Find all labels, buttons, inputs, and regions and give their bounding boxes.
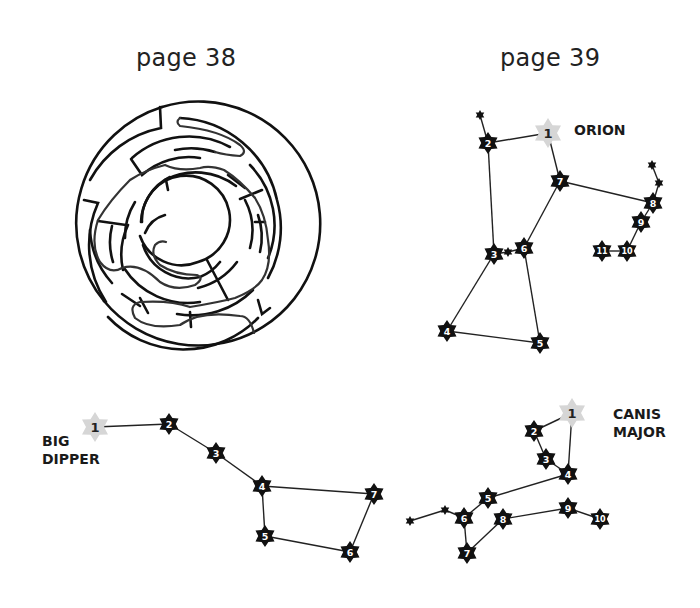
- star-number: 3: [213, 448, 220, 459]
- big-dipper-star-6[interactable]: 6: [341, 541, 360, 563]
- star-number: 4: [565, 469, 572, 480]
- star-number: 4: [259, 481, 266, 492]
- star-number: 2: [531, 426, 538, 437]
- star-number: 9: [638, 217, 645, 228]
- big-dipper-star-5[interactable]: 5: [256, 525, 275, 547]
- big-dipper-label-line-1: BIG: [42, 432, 100, 450]
- orion-connector-line: [447, 331, 540, 343]
- star-number: 8: [650, 198, 657, 209]
- orion-connector-line: [524, 181, 560, 248]
- star-number: 11: [596, 247, 608, 256]
- canis-major-constellation: 12345678910: [406, 398, 610, 564]
- orion-connector-line: [447, 254, 494, 331]
- orion-minor-star-icon: [648, 160, 657, 170]
- big-dipper-star-4[interactable]: 4: [253, 475, 272, 497]
- canis-major-star-7[interactable]: 7: [458, 542, 477, 564]
- star-number: 7: [371, 489, 378, 500]
- orion-star-8[interactable]: 8: [644, 192, 663, 214]
- big-dipper-connector-line: [265, 536, 350, 552]
- star-number: 7: [557, 176, 564, 187]
- big-dipper-star-3[interactable]: 3: [207, 442, 226, 464]
- star-number: 4: [444, 326, 451, 337]
- canis-major-star-2[interactable]: 2: [525, 420, 544, 442]
- star-number: 6: [461, 513, 468, 524]
- orion-connector-line: [488, 143, 494, 254]
- star-number: 1: [543, 126, 552, 141]
- star-number: 3: [491, 249, 498, 260]
- star-number: 9: [565, 503, 572, 514]
- orion-star-7[interactable]: 7: [551, 170, 570, 192]
- canis-major-minor-star-icon: [406, 516, 415, 526]
- orion-connector-line: [560, 181, 653, 203]
- star-number: 5: [537, 338, 544, 349]
- orion-label: ORION: [574, 121, 626, 139]
- canis-major-label-line-1: CANIS: [613, 405, 666, 423]
- canis-major-star-5[interactable]: 5: [479, 487, 498, 509]
- big-dipper-star-7[interactable]: 7: [365, 483, 384, 505]
- big-dipper-label: BIG DIPPER: [42, 432, 100, 468]
- canis-major-connector-line: [503, 508, 568, 519]
- orion-star-3[interactable]: 3: [485, 243, 504, 265]
- canis-major-star-9[interactable]: 9: [559, 497, 578, 519]
- star-number: 1: [567, 406, 576, 421]
- orion-connector-line: [524, 248, 540, 343]
- big-dipper-connector-line: [262, 486, 374, 494]
- big-dipper-connector-line: [350, 494, 374, 552]
- canis-major-label: CANIS MAJOR: [613, 405, 666, 441]
- canis-major-connector-line: [410, 510, 445, 521]
- star-number: 8: [500, 514, 507, 525]
- star-number: 2: [166, 419, 173, 430]
- star-number: 5: [485, 493, 492, 504]
- big-dipper-constellation: 1234567: [82, 412, 384, 563]
- canis-major-minor-star-icon: [441, 505, 450, 515]
- orion-star-4[interactable]: 4: [438, 320, 457, 342]
- star-number: 3: [543, 454, 550, 465]
- canis-major-star-8[interactable]: 8: [494, 508, 513, 530]
- star-number: 5: [262, 531, 269, 542]
- orion-star-11[interactable]: 11: [593, 240, 612, 262]
- canis-major-star-4[interactable]: 4: [559, 463, 578, 485]
- big-dipper-connector-line: [95, 424, 169, 427]
- star-number: 10: [621, 247, 633, 256]
- orion-star-2[interactable]: 2: [479, 132, 498, 154]
- canis-major-star-10[interactable]: 10: [591, 508, 610, 530]
- orion-constellation: 1234567891011: [438, 110, 664, 354]
- orion-minor-star-icon: [655, 178, 664, 188]
- big-dipper-label-line-2: DIPPER: [42, 450, 100, 468]
- orion-star-6[interactable]: 6: [515, 237, 534, 259]
- canis-major-label-line-2: MAJOR: [613, 423, 666, 441]
- star-number: 2: [485, 138, 492, 149]
- star-number: 6: [347, 547, 354, 558]
- orion-star-9[interactable]: 9: [632, 211, 651, 233]
- orion-star-5[interactable]: 5: [531, 332, 550, 354]
- star-number: 10: [594, 515, 606, 524]
- canis-major-star-3[interactable]: 3: [537, 448, 556, 470]
- star-number: 7: [464, 548, 471, 559]
- canis-major-star-1[interactable]: 1: [559, 398, 585, 428]
- orion-star-10[interactable]: 10: [618, 240, 637, 262]
- big-dipper-star-2[interactable]: 2: [160, 413, 179, 435]
- orion-star-1[interactable]: 1: [535, 118, 561, 148]
- canis-major-connector-line: [488, 474, 568, 498]
- constellations-layer: 1234567891011 1234567 12345678910: [0, 0, 700, 608]
- star-number: 6: [521, 243, 528, 254]
- orion-minor-star-icon: [476, 110, 485, 120]
- canis-major-star-6[interactable]: 6: [455, 507, 474, 529]
